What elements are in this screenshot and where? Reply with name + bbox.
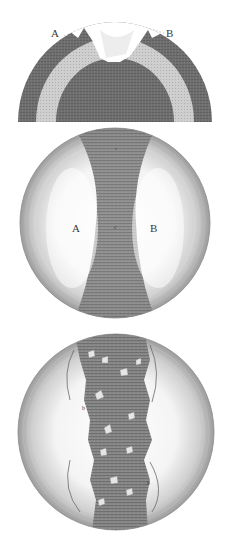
label-c-mid: c [114,224,117,230]
label-B-top: B [166,27,173,39]
label-b-left: b [82,405,85,411]
figure-sphere-fractured: b b [18,330,214,530]
label-A-mid: A [72,222,80,234]
figure-sphere-smooth: A B c e [20,120,210,330]
label-A-top: A [51,27,59,39]
engraving-plate: A B A B c e [0,0,228,556]
label-B-mid: B [150,222,157,234]
figure-section: A B [0,0,228,140]
label-b-right: b [147,480,150,486]
